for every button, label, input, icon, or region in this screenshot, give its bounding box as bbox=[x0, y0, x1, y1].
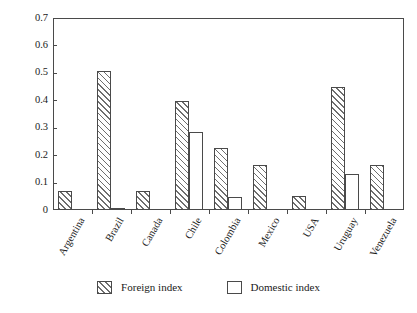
legend-swatch-icon bbox=[227, 281, 242, 294]
bar-usa-foreign bbox=[292, 196, 306, 210]
legend-swatch-icon bbox=[97, 281, 112, 294]
bar-mexico-foreign bbox=[253, 165, 267, 210]
x-axis-tick-mark bbox=[365, 210, 366, 214]
bar-colombia-foreign bbox=[214, 148, 228, 210]
bar-canada-foreign bbox=[136, 191, 150, 210]
y-axis-tick-label: 0.3 bbox=[4, 122, 48, 133]
x-axis-tick-mark bbox=[170, 210, 171, 214]
x-axis-tick-mark bbox=[248, 210, 249, 214]
x-axis-label-colombia: Colombia bbox=[213, 216, 243, 257]
bar-chile-foreign bbox=[175, 101, 189, 210]
y-axis-tick-mark bbox=[53, 155, 57, 156]
legend-item-domestic[interactable]: Domestic index bbox=[227, 281, 320, 294]
x-axis-label-argentina: Argentina bbox=[57, 216, 87, 257]
y-axis-tick-label: 0.4 bbox=[4, 95, 48, 106]
bar-argentina-foreign bbox=[58, 191, 72, 210]
x-axis-label-usa: USA bbox=[301, 216, 321, 239]
x-axis-tick-mark bbox=[287, 210, 288, 214]
x-axis-label-mexico: Mexico bbox=[256, 216, 281, 249]
y-axis-tick-label: 0.2 bbox=[4, 150, 48, 161]
x-axis-tick-mark bbox=[326, 210, 327, 214]
x-axis-label-uruguay: Uruguay bbox=[332, 216, 359, 253]
bar-brazil-foreign bbox=[97, 71, 111, 210]
legend-label: Domestic index bbox=[251, 282, 320, 293]
y-axis-tick-label: 0.1 bbox=[4, 177, 48, 188]
bar-colombia-domestic bbox=[228, 197, 242, 210]
bar-chile-domestic bbox=[189, 132, 203, 210]
legend-label: Foreign index bbox=[121, 282, 182, 293]
y-axis-tick-mark bbox=[53, 100, 57, 101]
x-axis-label-brazil: Brazil bbox=[104, 216, 126, 243]
y-axis-tick-label: 0.5 bbox=[4, 67, 48, 78]
bar-chart-figure: 00.10.20.30.40.50.60.7 ArgentinaBrazilCa… bbox=[0, 0, 417, 313]
x-axis-tick-mark bbox=[92, 210, 93, 214]
y-axis-tick-label: 0.6 bbox=[4, 40, 48, 51]
y-axis-tick-mark bbox=[53, 73, 57, 74]
y-axis-tick-mark bbox=[53, 45, 57, 46]
chart-legend: Foreign indexDomestic index bbox=[0, 281, 417, 294]
x-axis-label-chile: Chile bbox=[183, 216, 203, 241]
bar-brazil-domestic bbox=[111, 208, 125, 210]
x-axis-label-venezuela: Venezuela bbox=[368, 216, 399, 259]
bar-venezuela-foreign bbox=[370, 165, 384, 210]
x-axis-label-canada: Canada bbox=[140, 216, 165, 249]
y-axis-tick-label: 0.7 bbox=[4, 13, 48, 24]
bar-uruguay-foreign bbox=[331, 87, 345, 210]
x-axis-tick-mark bbox=[209, 210, 210, 214]
x-axis-tick-mark bbox=[131, 210, 132, 214]
legend-item-foreign[interactable]: Foreign index bbox=[97, 281, 182, 294]
bar-uruguay-domestic bbox=[345, 174, 359, 210]
y-axis-tick-mark bbox=[53, 183, 57, 184]
y-axis-tick-label: 0 bbox=[4, 205, 48, 216]
y-axis-tick-mark bbox=[53, 128, 57, 129]
